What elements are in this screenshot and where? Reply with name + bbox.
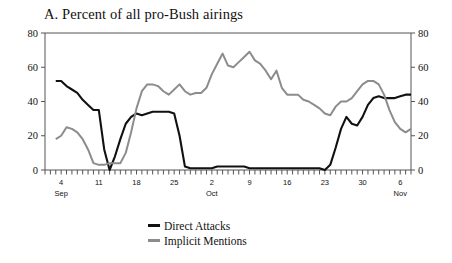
y-tick-label-right: 80 <box>418 28 429 39</box>
y-axis-labels-left: 020406080 <box>28 28 39 176</box>
x-tick-label: 25 <box>170 178 178 187</box>
x-tick-label: 6 <box>398 178 402 187</box>
x-axis-month-label: Oct <box>206 189 219 198</box>
series-line-implicit-mentions <box>56 52 411 165</box>
data-series <box>56 52 411 170</box>
legend-swatch-icon <box>148 224 160 227</box>
axes <box>45 33 411 170</box>
chart-legend: Direct Attacks Implicit Mentions <box>148 218 247 248</box>
y-tick-label: 60 <box>28 62 39 73</box>
x-tick-label: 23 <box>321 178 329 187</box>
y-tick-label: 40 <box>28 96 39 107</box>
legend-item-label: Implicit Mentions <box>164 235 247 247</box>
x-tick-label: 16 <box>283 178 291 187</box>
series-line-direct-attacks <box>56 81 411 170</box>
y-tick-label-right: 0 <box>418 165 423 176</box>
y-tick-label: 80 <box>28 28 39 39</box>
x-tick-label: 30 <box>358 178 366 187</box>
legend-item-implicit-mentions: Implicit Mentions <box>148 233 247 248</box>
x-axis-month-label: Sep <box>54 189 67 198</box>
legend-item-direct-attacks: Direct Attacks <box>148 218 247 233</box>
x-axis-month-label: Nov <box>394 189 408 198</box>
x-tick-label: 2 <box>210 178 214 187</box>
x-tick-label: 11 <box>95 178 103 187</box>
y-axis-labels-right: 020406080 <box>418 28 429 176</box>
y-tick-label-right: 60 <box>418 62 429 73</box>
x-tick-label: 9 <box>247 178 251 187</box>
x-tick-label: 4 <box>59 178 63 187</box>
axis-ticks <box>41 33 415 175</box>
x-tick-label: 18 <box>132 178 140 187</box>
y-tick-label: 20 <box>28 130 39 141</box>
y-tick-label-right: 40 <box>418 96 429 107</box>
y-tick-label-right: 20 <box>418 130 429 141</box>
x-axis-labels: 4Sep1118252Oct91623306Nov <box>54 178 407 198</box>
legend-item-label: Direct Attacks <box>164 220 230 232</box>
chart-figure: A. Percent of all pro-Bush airings 02040… <box>0 0 452 263</box>
legend-swatch-icon <box>148 239 160 242</box>
y-tick-label: 0 <box>33 165 38 176</box>
